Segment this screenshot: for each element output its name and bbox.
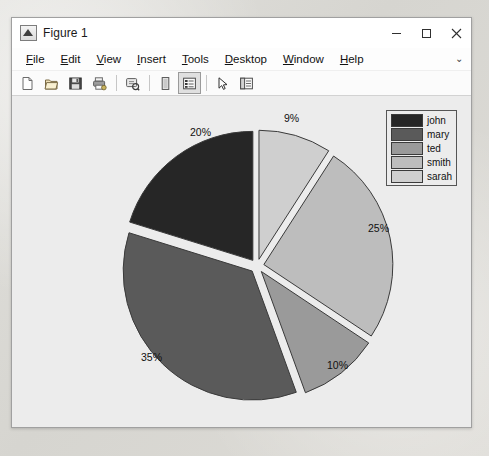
insert-colorbar-icon[interactable] bbox=[154, 72, 177, 94]
new-figure-icon[interactable] bbox=[16, 72, 39, 94]
edit-plot-pointer-icon[interactable] bbox=[211, 72, 234, 94]
menu-rest-help: elp bbox=[348, 53, 363, 65]
legend-swatch-mary bbox=[391, 128, 423, 141]
menu-rest-insert: nsert bbox=[140, 53, 166, 65]
menu-rest-tools: ools bbox=[188, 53, 209, 65]
menu-rest-file: ile bbox=[33, 53, 45, 65]
save-figure-icon[interactable] bbox=[64, 72, 87, 94]
pct-label-ted: 10% bbox=[327, 359, 348, 371]
toolbar-separator-1 bbox=[116, 75, 117, 91]
menu-item-insert[interactable]: Insert bbox=[129, 51, 174, 68]
menu-rest-edit: dit bbox=[68, 53, 80, 65]
menu-mnemonic-desktop: D bbox=[225, 53, 233, 65]
close-button[interactable] bbox=[441, 18, 471, 48]
menu-mnemonic-window: W bbox=[283, 53, 294, 65]
menu-rest-window: indow bbox=[294, 53, 324, 65]
legend-label-smith: smith bbox=[427, 157, 451, 168]
pct-label-sarah: 9% bbox=[284, 112, 299, 124]
axes-area: 9% 25% 10% 35% 20% john mary ted bbox=[18, 102, 465, 421]
toolbar-separator-2 bbox=[149, 75, 150, 91]
menu-item-view[interactable]: View bbox=[88, 51, 129, 68]
matlab-figure-icon bbox=[20, 25, 37, 41]
figure-canvas: 9% 25% 10% 35% 20% john mary ted bbox=[12, 96, 471, 427]
insert-legend-icon[interactable] bbox=[178, 72, 201, 94]
legend: john mary ted smith sarah bbox=[386, 110, 457, 186]
menu-bar: File Edit View Insert Tools Desktop Wind… bbox=[12, 48, 471, 71]
legend-swatch-john bbox=[391, 114, 423, 127]
legend-label-ted: ted bbox=[427, 143, 441, 154]
legend-item-mary[interactable]: mary bbox=[391, 128, 452, 140]
menu-item-desktop[interactable]: Desktop bbox=[217, 51, 275, 68]
window-title: Figure 1 bbox=[43, 26, 88, 40]
menu-mnemonic-file: F bbox=[26, 53, 33, 65]
print-figure-icon[interactable] bbox=[88, 72, 111, 94]
menu-item-tools[interactable]: Tools bbox=[174, 51, 217, 68]
legend-label-mary: mary bbox=[427, 129, 449, 140]
menu-item-file[interactable]: File bbox=[18, 51, 53, 68]
menu-overflow-icon[interactable]: ⌄ bbox=[455, 55, 463, 63]
menu-item-window[interactable]: Window bbox=[275, 51, 332, 68]
menu-mnemonic-view: V bbox=[96, 53, 103, 65]
legend-swatch-ted bbox=[391, 142, 423, 155]
open-file-icon[interactable] bbox=[40, 72, 63, 94]
legend-item-sarah[interactable]: sarah bbox=[391, 170, 452, 182]
show-plot-tools-icon[interactable] bbox=[235, 72, 258, 94]
menu-item-edit[interactable]: Edit bbox=[53, 51, 89, 68]
pct-label-smith: 25% bbox=[368, 222, 389, 234]
legend-label-john: john bbox=[427, 115, 446, 126]
minimize-button[interactable] bbox=[381, 18, 411, 48]
toolbar-separator-3 bbox=[206, 75, 207, 91]
pie-slices bbox=[123, 130, 393, 400]
legend-item-smith[interactable]: smith bbox=[391, 156, 452, 168]
toolbar bbox=[12, 71, 471, 96]
legend-swatch-smith bbox=[391, 156, 423, 169]
menu-rest-view: iew bbox=[104, 53, 121, 65]
pct-label-john: 20% bbox=[190, 126, 211, 138]
title-bar: Figure 1 bbox=[12, 18, 471, 48]
legend-item-john[interactable]: john bbox=[391, 114, 452, 126]
legend-item-ted[interactable]: ted bbox=[391, 142, 452, 154]
menu-mnemonic-help: H bbox=[340, 53, 348, 65]
window-controls bbox=[381, 18, 471, 48]
menu-rest-desktop: esktop bbox=[233, 53, 267, 65]
legend-label-sarah: sarah bbox=[427, 171, 452, 182]
zoom-link-icon[interactable] bbox=[121, 72, 144, 94]
maximize-button[interactable] bbox=[411, 18, 441, 48]
menu-item-help[interactable]: Help bbox=[332, 51, 372, 68]
pct-label-mary: 35% bbox=[141, 351, 162, 363]
legend-swatch-sarah bbox=[391, 170, 423, 183]
figure-window: Figure 1 File Edit View Insert Tools Des… bbox=[11, 17, 472, 428]
